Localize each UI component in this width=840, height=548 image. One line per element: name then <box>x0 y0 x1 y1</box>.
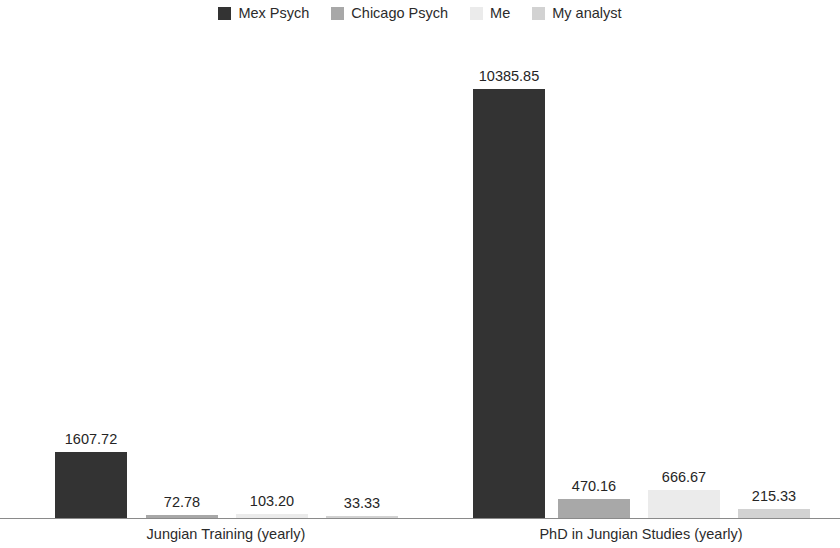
bar-value-label: 470.16 <box>558 478 630 494</box>
bar-value-label: 1607.72 <box>55 431 127 447</box>
bar-value-label: 215.33 <box>738 488 810 504</box>
legend-entry[interactable]: My analyst <box>532 6 621 20</box>
bar-value-label: 103.20 <box>236 493 308 509</box>
legend-label: Mex Psych <box>238 6 309 20</box>
chart-legend: Mex PsychChicago PsychMeMy analyst <box>0 6 840 20</box>
square-swatch-icon <box>218 7 231 20</box>
legend-entry[interactable]: Me <box>470 6 510 20</box>
bar[interactable] <box>738 509 810 518</box>
legend-label: Me <box>490 6 510 20</box>
square-swatch-icon <box>532 7 545 20</box>
legend-entry[interactable]: Chicago Psych <box>331 6 448 20</box>
square-swatch-icon <box>470 7 483 20</box>
bar[interactable] <box>55 452 127 518</box>
bar[interactable] <box>558 499 630 518</box>
bar[interactable] <box>146 515 218 518</box>
bar[interactable] <box>326 516 398 518</box>
square-swatch-icon <box>331 7 344 20</box>
bar-value-label: 33.33 <box>326 495 398 511</box>
bar-value-label: 72.78 <box>146 494 218 510</box>
legend-entry[interactable]: Mex Psych <box>218 6 309 20</box>
bar-value-label: 10385.85 <box>473 68 545 84</box>
bar[interactable] <box>648 490 720 518</box>
legend-label: My analyst <box>552 6 621 20</box>
category-axis-label: PhD in Jungian Studies (yearly) <box>491 526 791 543</box>
category-axis-label: Jungian Training (yearly) <box>76 526 376 543</box>
plot-area: 1607.7272.78103.2033.3310385.85470.16666… <box>0 30 840 519</box>
bar-chart: Mex PsychChicago PsychMeMy analyst 1607.… <box>0 0 840 548</box>
bar-value-label: 666.67 <box>648 469 720 485</box>
bar[interactable] <box>236 514 308 518</box>
legend-label: Chicago Psych <box>351 6 448 20</box>
bar[interactable] <box>473 89 545 518</box>
x-axis-line <box>0 518 840 519</box>
